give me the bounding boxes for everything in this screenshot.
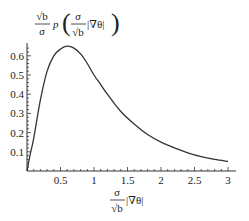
x-tick-label: 1.5 [121,174,135,186]
y-tick-label: 0.3 [10,107,24,119]
y-tick-label: 0.4 [10,88,24,100]
y-axis-label: √bσp(σ√b|∇θ|) [35,8,120,38]
y-tick-label: 0.2 [10,127,24,139]
y-label-arg-tail: |∇θ| [87,18,104,30]
y-tick-label: 0.6 [10,50,24,62]
y-label-arg-den: √b [72,26,84,38]
y-tick-label: 0.5 [10,69,24,81]
tick-labels: 0.511.522.530.10.20.30.40.50.6 [10,50,231,186]
x-label-denominator: √b [111,202,123,214]
x-axis-label: σ√b|∇θ| [110,186,143,214]
x-label-tail: |∇θ| [126,194,143,206]
y-label-numerator: √b [36,10,48,22]
x-tick-label: 3 [225,174,231,186]
x-tick-label: 1 [91,174,97,186]
x-label-numerator: σ [114,186,120,198]
data-curve [27,46,228,171]
x-tick-label: 2 [158,174,164,186]
x-tick-label: 2.5 [188,174,202,186]
y-tick-label: 0.1 [10,146,24,158]
y-label-paren-open: ( [62,8,71,37]
tick-marks [27,48,228,171]
y-label-arg-num: σ [75,10,81,22]
y-label-func: p [52,18,59,30]
line-chart: √bσp(σ√b|∇θ|) σ√b|∇θ| 0.511.522.530.10.2… [0,0,249,221]
axes [27,43,236,171]
y-label-denominator: σ [39,25,45,37]
y-label-paren-close: ) [111,8,120,37]
x-tick-label: 0.5 [54,174,68,186]
